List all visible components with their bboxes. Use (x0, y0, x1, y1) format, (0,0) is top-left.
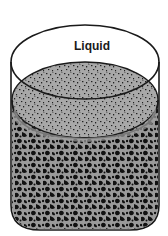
liquid-label: Liquid (74, 39, 110, 53)
liquid-over-porous-solid-diagram: Liquid (0, 0, 168, 236)
sediment-surface (12, 62, 158, 142)
